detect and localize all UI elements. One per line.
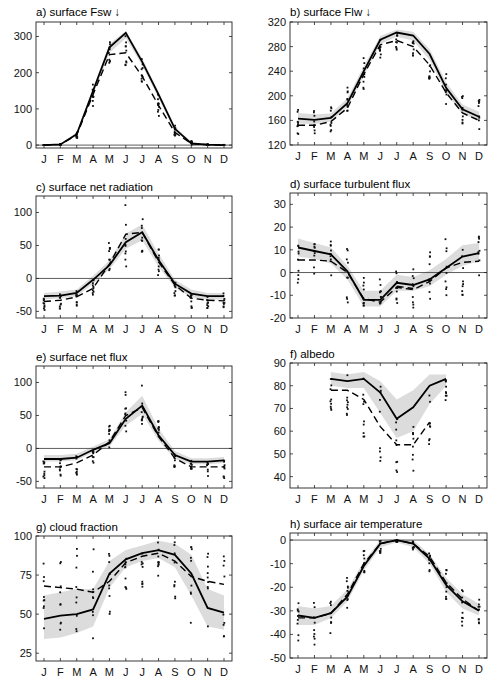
scatter-point — [223, 476, 225, 478]
scatter-point — [190, 622, 192, 624]
scatter-point — [347, 302, 349, 304]
scatter-point — [478, 120, 480, 122]
scatter-point — [108, 588, 110, 590]
scatter-point — [109, 43, 111, 45]
x-tick-label: J — [139, 153, 145, 165]
y-tick-label: 120 — [268, 139, 286, 151]
scatter-point — [380, 284, 382, 286]
x-tick-label: D — [475, 150, 483, 162]
scatter-point — [125, 431, 127, 433]
scatter-point — [313, 255, 315, 257]
scatter-point — [379, 540, 381, 542]
scatter-point — [141, 423, 143, 425]
y-tick-label: 40 — [274, 471, 286, 483]
scatter-point — [428, 443, 430, 445]
scatter-point — [141, 411, 143, 413]
scatter-point — [461, 290, 463, 292]
scatter-point — [363, 57, 365, 59]
scatter-point — [158, 270, 160, 272]
x-tick-label: F — [311, 663, 318, 675]
x-tick-label: M — [72, 666, 81, 678]
scatter-point — [445, 596, 447, 598]
x-tick-label: S — [171, 153, 178, 165]
scatter-point — [142, 218, 144, 220]
scatter-point — [461, 97, 463, 99]
x-tick-label: M — [359, 150, 368, 162]
scatter-point — [297, 623, 299, 625]
scatter-point — [108, 553, 110, 555]
scatter-point — [92, 284, 94, 286]
y-tick-label: 100 — [14, 376, 32, 388]
scatter-point — [93, 286, 95, 288]
scatter-point — [157, 109, 159, 111]
scatter-point — [125, 425, 127, 427]
scatter-point — [445, 569, 447, 571]
scatter-point — [60, 604, 62, 606]
plot-frame — [36, 22, 232, 148]
dashed-series-line — [298, 41, 479, 126]
uncertainty-band — [298, 539, 479, 625]
scatter-point — [379, 399, 381, 401]
scatter-point — [43, 461, 45, 463]
x-tick-label: M — [359, 493, 368, 505]
scatter-point — [141, 251, 143, 253]
scatter-point — [330, 245, 332, 247]
scatter-point — [76, 555, 78, 557]
scatter-point — [43, 596, 45, 598]
scatter-point — [412, 268, 414, 270]
scatter-point — [157, 575, 159, 577]
scatter-point — [76, 615, 78, 617]
scatter-point — [445, 77, 447, 79]
x-tick-label: F — [311, 493, 318, 505]
scatter-point — [446, 286, 448, 288]
scatter-point — [478, 622, 480, 624]
x-tick-label: O — [442, 663, 451, 675]
y-tick-label: -50 — [270, 652, 286, 664]
scatter-point — [109, 613, 111, 615]
scatter-point — [174, 292, 176, 294]
scatter-point — [379, 57, 381, 59]
scatter-point — [124, 567, 126, 569]
scatter-point — [313, 636, 315, 638]
scatter-point — [224, 302, 226, 304]
scatter-point — [445, 399, 447, 401]
scatter-point — [330, 399, 332, 401]
scatter-point — [93, 291, 95, 293]
scatter-point — [59, 629, 61, 631]
scatter-point — [174, 584, 176, 586]
scatter-point — [462, 283, 464, 285]
scatter-point — [395, 46, 397, 48]
scatter-point — [223, 636, 225, 638]
scatter-point — [297, 274, 299, 276]
x-tick-label: J — [378, 323, 384, 335]
scatter-point — [157, 565, 159, 567]
scatter-point — [43, 605, 45, 607]
scatter-point — [445, 103, 447, 105]
scatter-point — [330, 400, 332, 402]
scatter-point — [207, 553, 209, 555]
scatter-point — [314, 638, 316, 640]
x-tick-label: N — [459, 150, 467, 162]
scatter-point — [363, 550, 365, 552]
scatter-point — [412, 296, 414, 298]
scatter-point — [142, 416, 144, 418]
scatter-point — [207, 475, 209, 477]
scatter-point — [125, 259, 127, 261]
scatter-point — [412, 304, 414, 306]
scatter-point — [190, 557, 192, 559]
scatter-point — [125, 391, 127, 393]
scatter-point — [157, 421, 159, 423]
scatter-point — [412, 454, 414, 456]
scatter-point — [125, 238, 127, 240]
scatter-point — [330, 106, 332, 108]
scatter-point — [445, 381, 447, 383]
scatter-point — [412, 459, 414, 461]
scatter-point — [92, 294, 94, 296]
x-tick-label: M — [359, 663, 368, 675]
scatter-point — [330, 632, 332, 634]
scatter-point — [297, 109, 299, 111]
scatter-point — [445, 598, 447, 600]
x-tick-label: A — [89, 666, 97, 678]
scatter-point — [223, 624, 225, 626]
x-tick-label: O — [187, 666, 196, 678]
